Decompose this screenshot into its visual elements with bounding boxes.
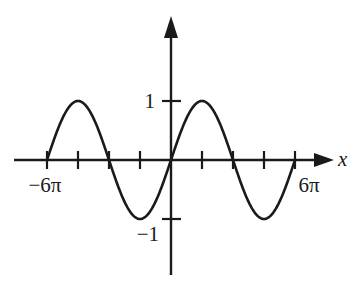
y-tick-label-neg-1: −1 — [137, 222, 159, 246]
y-axis-arrowhead — [164, 16, 178, 38]
x-tick-label-neg-6pi: −6π — [29, 173, 62, 197]
x-axis-arrowhead — [314, 153, 334, 167]
x-axis-label: x — [337, 147, 348, 171]
y-tick-label-1: 1 — [145, 89, 156, 113]
sine-chart: −6π 6π 1 −1 x — [0, 0, 358, 281]
x-tick-label-6pi: 6π — [298, 173, 320, 197]
axes — [14, 16, 334, 275]
